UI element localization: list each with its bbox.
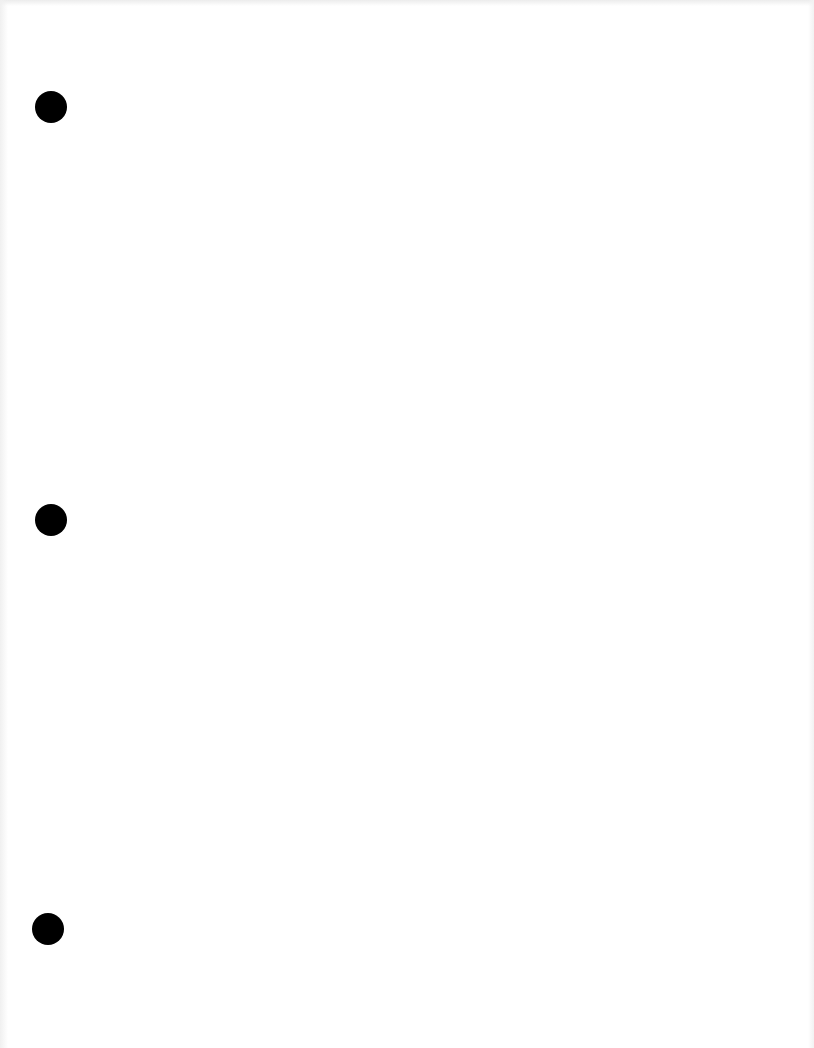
scan-shadow-left [0, 0, 8, 1048]
punch-hole-middle [35, 504, 67, 536]
punch-hole-bottom [32, 913, 64, 945]
blank-scanned-page [0, 0, 814, 1048]
scan-shadow-right [808, 0, 814, 1048]
punch-hole-top [35, 91, 67, 123]
scan-shadow-top [0, 0, 814, 6]
